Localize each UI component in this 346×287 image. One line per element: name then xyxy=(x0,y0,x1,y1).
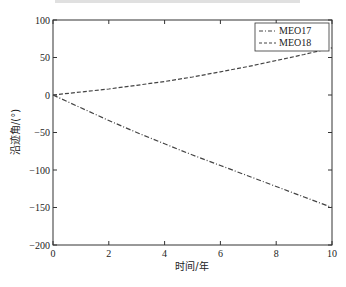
plot-area xyxy=(53,20,332,245)
y-tick-label: −50 xyxy=(34,127,50,138)
x-tick-label: 0 xyxy=(51,248,56,259)
x-tick-label: 10 xyxy=(327,248,337,259)
y-tick-label: 0 xyxy=(45,90,50,101)
y-tick-label: −200 xyxy=(29,240,50,251)
x-tick-label: 8 xyxy=(274,248,279,259)
line-chart: 100500−50−100−150−200 0246810 MEO17 MEO1… xyxy=(0,0,346,287)
x-tick-label: 2 xyxy=(106,248,111,259)
y-tick-label: 50 xyxy=(40,52,50,63)
x-tick-label: 6 xyxy=(218,248,223,259)
x-tick-label: 4 xyxy=(162,248,167,259)
y-tick-label: 100 xyxy=(35,15,50,26)
x-axis-title: 时间/年 xyxy=(175,260,208,272)
legend: MEO17 MEO18 xyxy=(255,23,329,51)
legend-label-meo18: MEO18 xyxy=(279,37,311,48)
y-tick-label: −100 xyxy=(29,165,50,176)
legend-label-meo17: MEO17 xyxy=(279,25,311,36)
y-tick-label: −150 xyxy=(29,202,50,213)
y-axis-title: 沿迹角/(°) xyxy=(9,109,21,155)
